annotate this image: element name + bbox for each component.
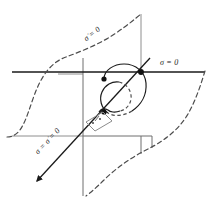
diagram-canvas [0, 0, 210, 205]
inset-dot-a [99, 118, 101, 120]
spiral-arc-inner-front [101, 82, 119, 113]
phase-portrait-figure: σ = 0 σ̇ = 0 σ = σ̇ = 0 [0, 0, 210, 205]
state-dot-axis-crossing [138, 69, 144, 75]
origin-zoom-box-outline [86, 112, 112, 131]
vertical-plane-edges [83, 14, 141, 196]
state-dot-start [101, 76, 106, 81]
sliding-manifold-axis [37, 58, 150, 181]
sigma-dot-surface-curve-upper [7, 14, 141, 137]
label-sigma-zero: σ = 0 [160, 58, 178, 67]
origin-zoom-box [86, 112, 112, 131]
inset-dot-b [92, 122, 94, 124]
spiral-tail [108, 110, 120, 112]
spiral-arc-inner-back [119, 82, 131, 111]
